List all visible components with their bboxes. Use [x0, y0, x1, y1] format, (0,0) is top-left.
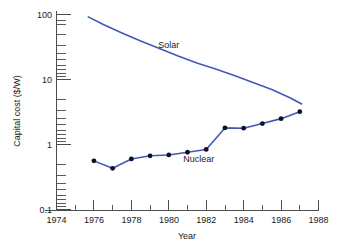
series-group	[88, 17, 302, 171]
x-tick-label-1984: 1984	[234, 215, 254, 225]
data-point-marker	[297, 109, 302, 114]
x-tick-label-1976: 1976	[84, 215, 104, 225]
data-point-marker	[166, 153, 171, 158]
data-point-marker	[204, 147, 209, 152]
y-axis-major-ticks	[57, 15, 71, 210]
axes	[45, 11, 319, 211]
capital-cost-line-chart: 100 10 1 0.1 1974	[0, 0, 343, 246]
x-tick-label-1982: 1982	[196, 215, 216, 225]
x-tick-label-1980: 1980	[159, 215, 179, 225]
y-axis-minor-ticks	[57, 20, 66, 207]
data-point-marker	[223, 126, 228, 131]
chart-canvas: 100 10 1 0.1 1974	[0, 0, 343, 246]
y-tick-label-100: 100	[37, 10, 52, 20]
x-tick-label-1986: 1986	[271, 215, 291, 225]
data-point-marker	[110, 166, 115, 171]
data-point-marker	[241, 126, 246, 131]
x-axis-tick-labels: 1974 1976 1978 1980 1982 1984 1986 1988	[46, 215, 328, 225]
solar-series-label: Solar	[158, 40, 179, 50]
y-tick-label-0_1: 0.1	[39, 205, 52, 215]
x-axis-title: Year	[178, 231, 196, 241]
x-tick-label-1988: 1988	[308, 215, 328, 225]
data-point-marker	[129, 157, 134, 162]
y-axis-title: Capital cost ($/W)	[12, 75, 22, 147]
y-tick-label-10: 10	[42, 75, 52, 85]
data-point-marker	[92, 158, 97, 163]
nuclear-series-label: Nuclear	[183, 154, 214, 164]
data-point-marker	[279, 116, 284, 121]
data-point-marker	[260, 121, 265, 126]
data-point-marker	[148, 153, 153, 158]
y-axis-tick-labels: 100 10 1 0.1	[37, 10, 52, 215]
x-tick-label-1974: 1974	[46, 215, 66, 225]
solar-series-line	[88, 17, 301, 104]
x-axis-minor-ticks	[75, 205, 300, 211]
x-tick-label-1978: 1978	[121, 215, 141, 225]
y-tick-label-1: 1	[47, 140, 52, 150]
